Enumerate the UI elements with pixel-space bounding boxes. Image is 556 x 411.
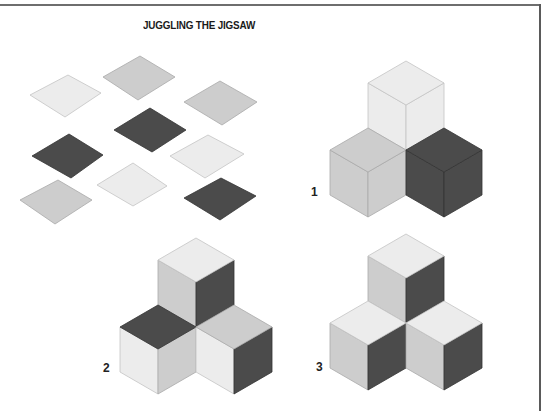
loose-tiles-group <box>20 56 257 224</box>
rhombus-tile-4 <box>114 108 186 152</box>
cube-figure-1 <box>330 61 482 217</box>
figure-label-2: 2 <box>103 361 110 375</box>
rhombus-tile-7 <box>20 180 92 224</box>
puzzle-page: JUGGLING THE JIGSAW 1 2 3 <box>0 0 556 411</box>
jigsaw-illustration <box>0 0 556 411</box>
rhombus-tile-3 <box>184 81 257 125</box>
cube-figures-group <box>120 61 482 394</box>
rhombus-tile-8 <box>97 163 167 206</box>
rhombus-tile-1 <box>30 75 101 117</box>
figure-label-3: 3 <box>316 360 323 374</box>
rhombus-tile-9 <box>184 178 256 220</box>
figure-label-1: 1 <box>311 185 318 199</box>
rhombus-tile-5 <box>32 134 103 178</box>
rhombus-tile-6 <box>170 135 244 178</box>
cube-figure-2 <box>120 238 272 394</box>
rhombus-tile-2 <box>103 56 175 100</box>
cube-figure-3 <box>330 234 482 390</box>
